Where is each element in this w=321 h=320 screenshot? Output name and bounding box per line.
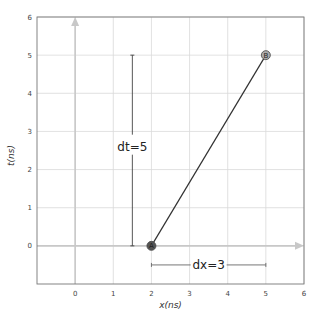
y-tick-label: 1 [28,204,32,212]
series [151,55,265,246]
dx-annotation-label: dx=3 [192,258,224,272]
x-tick-label: 6 [302,290,307,298]
y-tick-label: 0 [28,242,32,250]
y-tick-label: 5 [28,52,32,60]
x-tick-label: 4 [225,290,230,298]
worldline-series [151,55,265,246]
t-axis-arrowhead-icon [71,17,79,26]
dt-annotation-label: dt=5 [117,140,147,154]
event-label-a: A [149,242,154,250]
y-tick-label: 6 [28,14,33,22]
y-tick-label: 4 [28,90,33,98]
x-tick-label: 3 [187,290,191,298]
x-tick-label: 5 [264,290,268,298]
x-tick-label: 0 [73,290,77,298]
x-tick-labels: 0123456 [73,290,307,298]
y-axis-label: t(ns) [6,145,16,166]
annotations: dt=5dx=3 [117,55,266,272]
y-tick-label: 3 [28,128,32,136]
chart: dt=5dx=3 AB 0123456 0123456 x(ns) t(ns) [0,0,321,320]
x-axis-arrowhead-icon [295,242,304,250]
y-tick-label: 2 [28,166,32,174]
x-tick-label: 1 [111,290,115,298]
x-axis-label: x(ns) [158,300,182,310]
y-tick-labels: 0123456 [28,14,33,251]
x-tick-label: 2 [149,290,153,298]
event-label-b: B [263,52,268,60]
